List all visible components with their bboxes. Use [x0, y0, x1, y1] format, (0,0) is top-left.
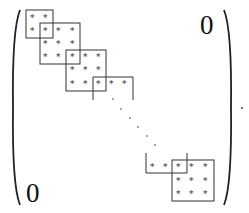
svg-text:*: *	[70, 65, 75, 75]
svg-text:*: *	[189, 162, 194, 172]
svg-text:*: *	[96, 52, 101, 62]
svg-text:*: *	[56, 26, 61, 36]
svg-text:*: *	[43, 26, 48, 36]
svg-text:*: *	[56, 39, 61, 49]
svg-text:*: *	[176, 189, 181, 199]
svg-text:*: *	[96, 65, 101, 75]
svg-text:*: *	[56, 52, 61, 62]
svg-text:*: *	[122, 79, 127, 89]
svg-text:*: *	[30, 26, 35, 36]
trailing-period	[241, 107, 243, 109]
left-parenthesis	[13, 10, 20, 205]
svg-text:*: *	[43, 39, 48, 49]
block-6-entries: * * * * * * * *	[176, 162, 208, 199]
svg-text:*: *	[70, 39, 75, 49]
svg-text:*: *	[83, 65, 88, 75]
upper-zero: 0	[200, 10, 214, 40]
svg-text:*: *	[43, 52, 48, 62]
svg-text:*: *	[189, 189, 194, 199]
right-parenthesis	[224, 10, 231, 205]
svg-text:*: *	[189, 176, 194, 186]
block-4-entries: * * *	[96, 79, 127, 89]
svg-text:*: *	[176, 176, 181, 186]
lower-zero: 0	[26, 178, 40, 208]
svg-text:*: *	[163, 162, 168, 172]
svg-text:*: *	[203, 189, 208, 199]
svg-text:*: *	[150, 162, 155, 172]
svg-text:*: *	[203, 176, 208, 186]
svg-text:*: *	[70, 52, 75, 62]
svg-text:*: *	[83, 79, 88, 89]
block-5-entries: * * *	[150, 162, 181, 172]
svg-text:*: *	[203, 162, 208, 172]
matrix-diagram: 0 0 * * * * * * * * * * * * * * * * * * …	[0, 0, 249, 213]
svg-text:*: *	[109, 79, 114, 89]
svg-text:*: *	[83, 52, 88, 62]
svg-text:*: *	[70, 79, 75, 89]
block-1-entries: * * * *	[30, 13, 48, 36]
svg-text:*: *	[30, 13, 35, 23]
svg-text:*: *	[96, 79, 101, 89]
svg-text:*: *	[70, 26, 75, 36]
svg-text:*: *	[176, 162, 181, 172]
diagonal-ellipsis	[112, 98, 156, 146]
svg-text:*: *	[43, 13, 48, 23]
